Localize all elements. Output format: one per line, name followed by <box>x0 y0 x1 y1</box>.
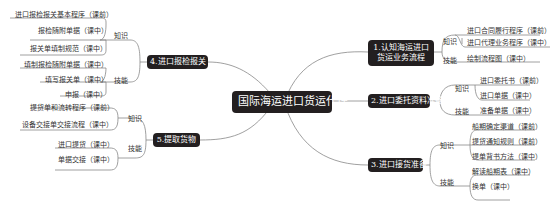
leaf-item[interactable]: 提单背书方法（课中） <box>472 152 542 162</box>
branch-node-2[interactable]: 2.进口委托资料准备 <box>368 94 430 108</box>
leaf-item[interactable]: 填写报关单（课中） <box>45 75 108 85</box>
category-skill: 技能 <box>440 177 454 187</box>
category-skill: 技能 <box>114 75 128 85</box>
leaf-item[interactable]: 船期确定渠道（课前） <box>472 122 542 132</box>
leaf-item[interactable]: 进口委托书（课前） <box>480 76 543 86</box>
leaf-item[interactable]: 进口代理业务程序（课中） <box>467 38 551 48</box>
branch-1-label-line2: 货运业务流程 <box>372 53 430 63</box>
leaf-item[interactable]: 设备交接单交接流程（课中） <box>22 120 113 130</box>
category-knowledge: 知识 <box>440 140 454 150</box>
leaf-item[interactable]: 提货单和流转程序（课前） <box>30 103 114 113</box>
branch-5-label: 5.提取货物 <box>157 135 197 144</box>
leaf-item[interactable]: 提货通知规则（课前） <box>472 137 542 147</box>
leaf-item[interactable]: 填制报检随附单据（课中） <box>24 60 108 70</box>
branch-4-label: 4.进口报检报关 <box>150 57 206 66</box>
category-knowledge: 知识 <box>455 83 469 93</box>
category-skill: 技能 <box>128 143 142 153</box>
category-knowledge: 知识 <box>128 113 142 123</box>
leaf-item[interactable]: 申报（课中） <box>65 90 107 100</box>
branch-2-label: 2.进口委托资料准备 <box>371 96 443 105</box>
branch-node-4[interactable]: 4.进口报检报关 <box>147 55 208 69</box>
branch-node-3[interactable]: 3.进口接货准备 <box>368 158 423 172</box>
leaf-item[interactable]: 解读船期表（课中） <box>472 167 535 177</box>
leaf-item[interactable]: 进口提货（课中） <box>58 140 114 150</box>
central-topic[interactable]: 国际海运进口货运代理 <box>232 91 332 113</box>
leaf-item[interactable]: 进口报检报关基本程序（课前） <box>15 10 113 20</box>
category-knowledge: 知识 <box>443 36 457 46</box>
leaf-item[interactable]: 进口单据（课中） <box>480 91 536 101</box>
branch-node-5[interactable]: 5.提取货物 <box>153 133 200 147</box>
leaf-item[interactable]: 绘制流程图（课中） <box>467 54 530 64</box>
branch-node-1[interactable]: 1.认知海运进口 货运业务流程 <box>368 40 434 66</box>
leaf-item[interactable]: 准备单据（课中） <box>480 106 536 116</box>
leaf-item[interactable]: 单据交接（课中） <box>58 155 114 165</box>
central-topic-label: 国际海运进口货运代理 <box>238 95 348 108</box>
leaf-item[interactable]: 报检随附单据（课中） <box>38 26 108 36</box>
category-knowledge: 知识 <box>114 30 128 40</box>
branch-3-label: 3.进口接货准备 <box>371 160 427 169</box>
leaf-item[interactable]: 进口合同履行程序（课前） <box>467 26 551 36</box>
branch-1-label-line1: 1.认知海运进口 <box>372 43 430 53</box>
category-skill: 技能 <box>443 55 457 65</box>
leaf-item[interactable]: 换单（课中） <box>472 182 514 192</box>
leaf-item[interactable]: 报关单填制规范（课中） <box>30 44 107 54</box>
category-skill: 技能 <box>455 106 469 116</box>
